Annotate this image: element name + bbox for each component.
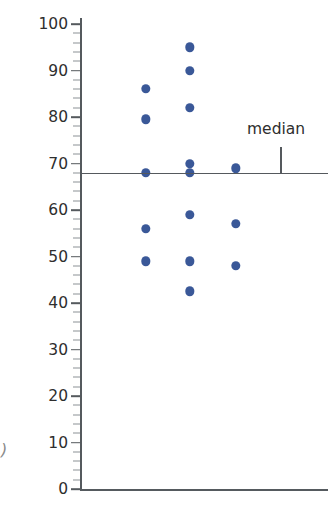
y-minor-tick: [73, 284, 80, 285]
y-minor-tick: [73, 330, 80, 331]
data-point: [141, 84, 150, 93]
y-minor-tick: [73, 377, 80, 378]
y-major-tick: [71, 442, 81, 444]
y-minor-tick: [73, 191, 80, 192]
y-minor-tick: [73, 51, 80, 52]
y-minor-tick: [73, 126, 80, 127]
y-minor-tick: [73, 89, 80, 90]
y-minor-tick: [73, 461, 80, 462]
data-point: [231, 163, 240, 172]
y-minor-tick: [73, 154, 80, 155]
y-tick-label: 20: [22, 387, 68, 405]
data-point: [231, 219, 240, 228]
y-minor-tick: [73, 33, 80, 34]
y-minor-tick: [73, 470, 80, 471]
y-axis-spine: [80, 18, 82, 490]
data-point: [185, 256, 194, 265]
y-major-tick: [71, 70, 81, 72]
data-point: [141, 256, 150, 265]
data-point: [185, 103, 194, 112]
y-minor-tick: [73, 172, 80, 173]
y-major-tick: [71, 488, 81, 490]
x-axis-baseline: [80, 489, 328, 491]
y-major-tick: [71, 116, 81, 118]
y-minor-tick: [73, 219, 80, 220]
y-tick-label: 40: [22, 294, 68, 312]
y-minor-tick: [73, 182, 80, 183]
y-minor-tick: [73, 98, 80, 99]
y-minor-tick: [73, 237, 80, 238]
data-point: [185, 287, 194, 296]
y-minor-tick: [73, 358, 80, 359]
y-minor-tick: [73, 321, 80, 322]
y-minor-tick: [73, 247, 80, 248]
y-minor-tick: [73, 275, 80, 276]
y-minor-tick: [73, 386, 80, 387]
y-minor-tick: [73, 135, 80, 136]
y-minor-tick: [73, 61, 80, 62]
data-point: [231, 261, 240, 270]
data-point: [185, 159, 194, 168]
y-major-tick: [71, 395, 81, 397]
y-minor-tick: [73, 79, 80, 80]
data-point: [141, 115, 150, 124]
median-label: median: [247, 120, 305, 138]
median-callout-pointer: [280, 147, 282, 173]
median-line: [80, 173, 328, 175]
y-tick-label: 90: [22, 62, 68, 80]
chart-figure: Environmental quality scores ) 010203040…: [0, 0, 328, 513]
y-tick-label: 70: [22, 155, 68, 173]
y-tick-label: 10: [22, 434, 68, 452]
y-minor-tick: [73, 479, 80, 480]
y-minor-tick: [73, 451, 80, 452]
y-minor-tick: [73, 228, 80, 229]
y-tick-label: 0: [22, 480, 68, 498]
y-minor-tick: [73, 405, 80, 406]
y-minor-tick: [73, 42, 80, 43]
plot-area: 0102030405060708090100 median: [0, 0, 328, 513]
y-major-tick: [71, 209, 81, 211]
y-major-tick: [71, 302, 81, 304]
y-major-tick: [71, 163, 81, 165]
y-minor-tick: [73, 340, 80, 341]
y-minor-tick: [73, 312, 80, 313]
y-minor-tick: [73, 433, 80, 434]
y-minor-tick: [73, 423, 80, 424]
data-point: [185, 66, 194, 75]
y-axis-tick-labels: 0102030405060708090100: [22, 0, 68, 513]
y-tick-label: 50: [22, 248, 68, 266]
y-minor-tick: [73, 368, 80, 369]
y-minor-tick: [73, 200, 80, 201]
data-point: [185, 210, 194, 219]
y-tick-label: 60: [22, 201, 68, 219]
y-tick-label: 100: [22, 15, 68, 33]
y-minor-tick: [73, 144, 80, 145]
y-minor-tick: [73, 265, 80, 266]
y-major-tick: [71, 349, 81, 351]
y-tick-label: 80: [22, 108, 68, 126]
y-major-tick: [71, 256, 81, 258]
data-point: [185, 43, 194, 52]
y-minor-tick: [73, 293, 80, 294]
y-minor-tick: [73, 414, 80, 415]
y-tick-label: 30: [22, 341, 68, 359]
data-point: [141, 224, 150, 233]
y-major-tick: [71, 23, 81, 25]
y-minor-tick: [73, 107, 80, 108]
